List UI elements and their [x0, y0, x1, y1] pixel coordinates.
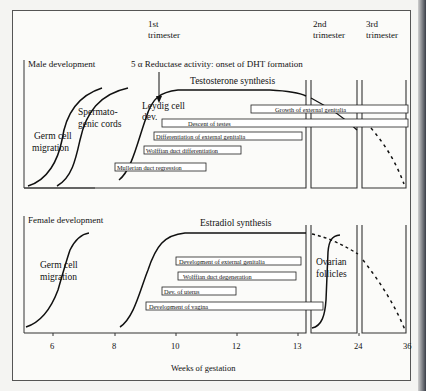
bar-label: Differentiation of external genitalia	[156, 133, 245, 140]
testosterone-dashed-decline	[371, 128, 404, 184]
trimester-2-line2: trimester	[313, 30, 345, 40]
female-panel: Female development Germ cell migration E…	[24, 215, 406, 333]
trimester-2-line1: 2nd	[313, 19, 327, 29]
bar-label: Descent of testes	[188, 120, 231, 127]
tick-label: 8	[112, 341, 116, 351]
bar-label: Dev. of uterus	[164, 288, 200, 295]
estradiol-label: Estradiol synthesis	[200, 218, 272, 228]
x-axis-label: Weeks of gestation	[171, 363, 236, 373]
bar-label: Development of external genitalia	[179, 258, 265, 265]
bar-label: Development of vagina	[149, 303, 208, 310]
bar-label: Wolffian duct differentiation	[146, 147, 219, 154]
cords-label-1: Spermato-	[78, 107, 118, 117]
cords-label-2: genic cords	[78, 119, 122, 129]
female-germ-cell-label-1: Germ cell	[40, 260, 78, 270]
male-title: Male development	[28, 59, 96, 69]
bar-label: Wolffian duct degeneration	[183, 273, 252, 280]
testosterone-label: Testosterone synthesis	[190, 76, 275, 86]
male-panel: Male development 5 α Reductase activity:…	[24, 59, 408, 188]
follicles-label-1: Ovarian	[316, 257, 347, 267]
tick-label: 10	[171, 341, 180, 351]
trimester-1-line2: trimester	[148, 30, 180, 40]
female-title: Female development	[28, 215, 104, 225]
male-germ-cell-label-2: migration	[32, 143, 69, 153]
sexual-differentiation-diagram: 1st trimester 2nd trimester 3rd trimeste…	[0, 0, 426, 391]
bar-label: Growth of external genitalia	[275, 106, 346, 113]
bar-label: Mullerian duct regression	[117, 164, 183, 171]
male-bars: Growth of external genitalia Descent of …	[115, 105, 408, 171]
tick-label: 36	[403, 341, 412, 351]
tick-label: 24	[354, 341, 363, 351]
leydig-label-1: Leydig cell	[142, 101, 185, 111]
female-germ-cell-label-2: migration	[40, 272, 77, 282]
trimester-3-line2: trimester	[366, 30, 398, 40]
male-germ-cell-label-1: Germ cell	[34, 131, 72, 141]
ovarian-follicles-curve	[312, 235, 340, 328]
trimester-1-line1: 1st	[148, 19, 159, 29]
tick-label: 12	[232, 341, 241, 351]
scan-edge-shadow	[418, 0, 426, 391]
reductase-label: 5 α Reductase activity: onset of DHT for…	[131, 59, 303, 69]
female-bars: Development of external genitalia Wolffi…	[146, 257, 323, 310]
tick-label: 13	[293, 341, 302, 351]
trimester-3-line1: 3rd	[366, 19, 378, 29]
trimester-headers: 1st trimester 2nd trimester 3rd trimeste…	[148, 19, 398, 40]
leydig-label-2: dev.	[142, 112, 157, 122]
tick-label: 6	[50, 341, 54, 351]
estradiol-dashed-decline-2	[363, 260, 405, 330]
x-axis: 6 8 10 12 13 24 36 Weeks of gestation	[50, 333, 412, 373]
follicles-label-2: follicles	[316, 269, 347, 279]
